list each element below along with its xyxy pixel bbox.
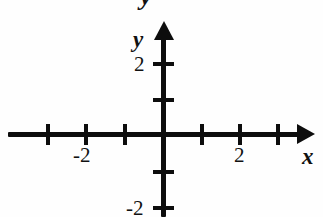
y-axis-tick-label-2: 2 bbox=[134, 54, 145, 75]
y-axis-tick bbox=[153, 206, 174, 210]
y-axis-arrowhead-icon bbox=[154, 21, 174, 40]
x-axis-tick bbox=[238, 124, 242, 145]
x-axis-tick bbox=[84, 124, 88, 145]
x-axis-tick bbox=[200, 124, 204, 145]
x-axis-label: x bbox=[302, 145, 314, 168]
x-axis-tick bbox=[123, 124, 127, 145]
coordinate-plane-figure: y -2 2 2 -2 y x bbox=[0, 0, 323, 217]
y-axis-tick bbox=[153, 62, 174, 66]
clipped-y-glyph: y bbox=[140, 0, 152, 10]
x-axis-tick-label-2: 2 bbox=[234, 145, 245, 166]
y-axis-tick-label-negative-2: -2 bbox=[126, 198, 144, 217]
x-axis-tick bbox=[276, 124, 280, 145]
y-axis-label: y bbox=[133, 28, 143, 51]
x-axis-tick-label-negative-2: -2 bbox=[73, 145, 91, 166]
x-axis-line bbox=[8, 132, 305, 137]
x-axis-arrowhead-icon bbox=[297, 124, 315, 144]
y-axis-line bbox=[161, 30, 166, 217]
y-axis-tick bbox=[153, 98, 174, 102]
y-axis-tick bbox=[153, 170, 174, 174]
x-axis-tick bbox=[46, 124, 50, 145]
